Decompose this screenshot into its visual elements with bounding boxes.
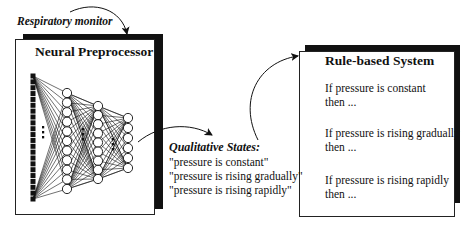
- input-node-icon: [31, 103, 36, 108]
- ellipsis-dot-icon: [42, 126, 44, 128]
- input-node-icon: [31, 138, 36, 143]
- neuron-icon: [62, 136, 71, 145]
- neuron-icon: [62, 175, 71, 184]
- input-node-icon: [31, 167, 36, 172]
- input-node-icon: [31, 115, 36, 120]
- monitor-to-network-arrow: [70, 7, 127, 34]
- neuron-icon: [62, 146, 71, 155]
- neuron-icon: [123, 113, 132, 122]
- ellipsis-dot-icon: [82, 133, 84, 135]
- input-node-icon: [31, 74, 36, 79]
- neuron-icon: [62, 117, 71, 126]
- neural-network-diagram: [0, 0, 475, 229]
- neuron-icon: [62, 184, 71, 193]
- neuron-icon: [93, 147, 102, 156]
- input-node-icon: [31, 132, 36, 137]
- neuron-icon: [123, 123, 132, 132]
- neuron-icon: [93, 120, 102, 129]
- input-node-icon: [31, 79, 36, 84]
- input-node-icon: [31, 161, 36, 166]
- ellipsis-dot-icon: [112, 143, 114, 145]
- neuron-icon: [123, 143, 132, 152]
- neuron-icon: [123, 153, 132, 162]
- states-to-rules-arrow: [250, 56, 298, 140]
- neuron-icon: [62, 127, 71, 136]
- neuron-icon: [62, 108, 71, 117]
- neuron-icon: [93, 129, 102, 138]
- input-node-icon: [31, 144, 36, 149]
- ellipsis-dot-icon: [82, 128, 84, 130]
- ellipsis-dot-icon: [42, 136, 44, 138]
- input-node-icon: [31, 197, 36, 202]
- neuron-icon: [62, 88, 71, 97]
- ellipsis-dot-icon: [112, 138, 114, 140]
- neuron-icon: [123, 133, 132, 142]
- input-node-icon: [31, 191, 36, 196]
- neuron-icon: [93, 174, 102, 183]
- neuron-icon: [93, 138, 102, 147]
- neuron-icon: [62, 156, 71, 165]
- input-node-icon: [31, 179, 36, 184]
- neuron-icon: [93, 111, 102, 120]
- input-node-icon: [31, 126, 36, 131]
- input-node-icon: [31, 97, 36, 102]
- neuron-icon: [62, 165, 71, 174]
- input-node-icon: [31, 91, 36, 96]
- neuron-icon: [93, 156, 102, 165]
- input-node-icon: [31, 150, 36, 155]
- neuron-icon: [123, 163, 132, 172]
- input-node-icon: [31, 85, 36, 90]
- network-to-states-arrow: [138, 127, 212, 142]
- input-node-icon: [31, 185, 36, 190]
- input-node-icon: [31, 120, 36, 125]
- input-node-icon: [31, 173, 36, 178]
- ellipsis-dot-icon: [112, 148, 114, 150]
- ellipsis-dot-icon: [82, 138, 84, 140]
- input-node-icon: [31, 156, 36, 161]
- ellipsis-dot-icon: [42, 131, 44, 133]
- neuron-icon: [93, 165, 102, 174]
- input-node-icon: [31, 109, 36, 114]
- neuron-icon: [93, 101, 102, 110]
- neuron-icon: [62, 98, 71, 107]
